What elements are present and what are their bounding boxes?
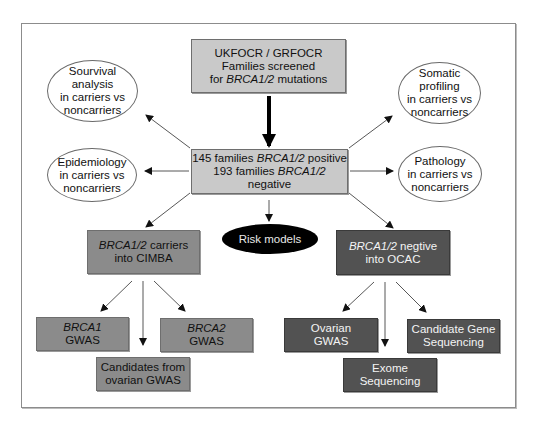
brca1-gwas-line-2: GWAS — [63, 334, 101, 347]
screening-line-3: for BRCA1/2 mutations — [210, 73, 328, 86]
brca2-gwas-line-1: BRCA2 — [187, 322, 225, 335]
brca1-gwas-box: BRCA1 GWAS — [36, 317, 129, 351]
arrow-to-candidate-gene — [396, 282, 426, 312]
exome-line-2: Sequencing — [360, 375, 421, 388]
positive-families-line: 145 families BRCA1/2 positive — [192, 152, 347, 165]
pathology-line-3: noncarriers — [407, 181, 472, 194]
survival-line-2: in carriers vs — [48, 91, 137, 104]
candidate-gene-sequencing-box: Candidate Gene Sequencing — [407, 319, 500, 353]
cimba-line-2: into CIMBA — [99, 252, 188, 265]
exome-sequencing-box: Exome Sequencing — [343, 358, 437, 392]
ovarian-gwas-box: Ovarian GWAS — [284, 318, 378, 352]
candidate-gene-line-2: Sequencing — [412, 336, 496, 349]
epidemiology-line-3: noncarriers — [57, 182, 126, 195]
ocac-box: BRCA1/2 negtive into OCAC — [336, 230, 450, 275]
survival-line-1: Sourvival analysis — [48, 65, 137, 91]
survival-analysis-ellipse: Sourvival analysis in carriers vs noncar… — [47, 60, 138, 122]
risk-models-ellipse: Risk models — [222, 224, 318, 254]
brca1-gwas-line-1: BRCA1 — [63, 321, 101, 334]
screening-box: UKFOCR / GRFOCR Families screened for BR… — [191, 39, 346, 93]
epidemiology-ellipse: Epidemiology in carriers vs noncarriers — [47, 148, 137, 202]
arrow-to-somatic — [349, 116, 392, 148]
risk-models-label: Risk models — [239, 233, 302, 246]
arrow-to-brca1-gwas — [101, 281, 132, 311]
pathology-ellipse: Pathology in carriers vs noncarriers — [398, 146, 482, 202]
pathology-line-2: in carriers vs — [407, 168, 472, 181]
brca2-gwas-line-2: GWAS — [187, 335, 225, 348]
somatic-line-3: noncarriers — [399, 106, 480, 119]
candidates-line-1: Candidates from — [101, 361, 185, 374]
epidemiology-line-1: Epidemiology — [57, 156, 126, 169]
results-box: 145 families BRCA1/2 positive 193 famili… — [191, 149, 348, 194]
arrow-to-survival — [146, 115, 190, 148]
somatic-profiling-ellipse: Somatic profiling in carriers vs noncarr… — [398, 62, 481, 124]
arrow-to-cimba — [146, 193, 190, 227]
ovarian-gwas-line-1: Ovarian — [311, 322, 351, 335]
negative-families-line: 193 families BRCA1/2 negative — [192, 165, 347, 191]
candidate-gene-line-1: Candidate Gene — [412, 323, 496, 336]
epidemiology-line-2: in carriers vs — [57, 169, 126, 182]
exome-line-1: Exome — [360, 362, 421, 375]
candidates-line-2: ovarian GWAS — [101, 374, 185, 387]
ocac-line-1: BRCA1/2 negtive — [349, 240, 437, 253]
arrow-to-ovarian-gwas — [343, 282, 374, 311]
somatic-line-2: in carriers vs — [399, 93, 480, 106]
arrow-to-ocac — [349, 193, 393, 228]
screening-line-1: UKFOCR / GRFOCR — [210, 47, 328, 60]
ovarian-gwas-line-2: GWAS — [311, 335, 351, 348]
arrow-to-brca2-gwas — [154, 281, 185, 311]
cimba-box: BRCA1/2 carriers into CIMBA — [87, 230, 200, 274]
somatic-line-1: Somatic profiling — [399, 67, 480, 93]
pathology-line-1: Pathology — [407, 155, 472, 168]
screening-line-2: Families screened — [210, 60, 328, 73]
survival-line-3: noncarriers — [48, 104, 137, 117]
candidates-from-ovarian-gwas-box: Candidates from ovarian GWAS — [96, 357, 190, 391]
brca2-gwas-box: BRCA2 GWAS — [160, 318, 253, 352]
ocac-line-2: into OCAC — [349, 253, 437, 266]
cimba-line-1: BRCA1/2 carriers — [99, 239, 188, 252]
